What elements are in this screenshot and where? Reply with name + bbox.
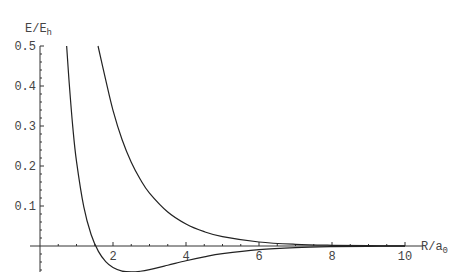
x-tick-label: 10 [398, 250, 412, 264]
x-axis-label: R/a0 [421, 240, 448, 256]
axes [30, 46, 423, 272]
x-tick-label: 2 [109, 250, 116, 264]
x-tick-label: 6 [255, 250, 262, 264]
y-tick-label: 0.3 [14, 120, 36, 134]
y-tick-label: 0.2 [14, 160, 36, 174]
potential-energy-chart: 2468100.10.20.30.40.5 E/Eh R/a0 [0, 0, 475, 272]
ticks: 2468100.10.20.30.40.5 [14, 40, 412, 270]
x-tick-label: 8 [328, 250, 335, 264]
y-axis-label: E/Eh [25, 22, 52, 38]
curve-bonding [67, 46, 405, 272]
y-tick-label: 0.4 [14, 80, 36, 94]
y-tick-label: 0.1 [14, 200, 36, 214]
curves [67, 46, 405, 272]
y-tick-label: 0.5 [14, 40, 36, 54]
curve-antibonding [98, 46, 405, 246]
